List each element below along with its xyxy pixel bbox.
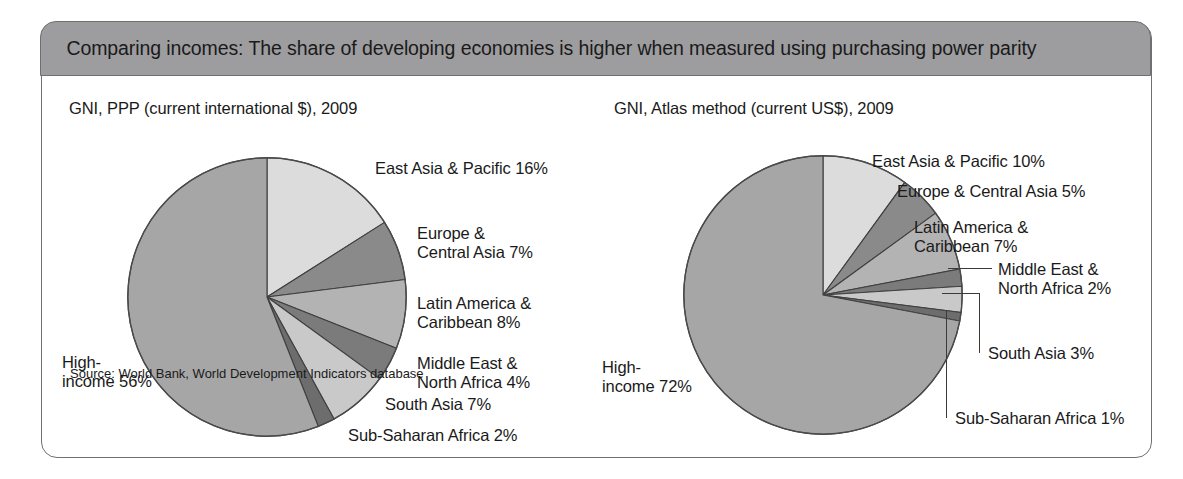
callout-europe-central-asia: Europe & Central Asia 7% — [417, 224, 533, 261]
chart-panel-ppp: GNI, PPP (current international $), 2009… — [42, 78, 598, 459]
callout-east-asia-pacific: East Asia & Pacific 16% — [375, 159, 548, 178]
chart-title-atlas: GNI, Atlas method (current US$), 2009 — [614, 99, 894, 118]
callout-east-asia-pacific: East Asia & Pacific 10% — [872, 152, 1045, 171]
chart-title-ppp: GNI, PPP (current international $), 2009 — [69, 99, 357, 118]
leader-line-middle-east — [948, 268, 992, 269]
figure-frame: Comparing incomes: The share of developi… — [41, 22, 1152, 458]
callout-high-income: High- income 72% — [602, 358, 692, 395]
pie-chart-ppp-svg — [126, 156, 408, 438]
chart-panel-atlas: GNI, Atlas method (current US$), 2009 Ea… — [542, 78, 1153, 459]
source-note: Source: World Bank, World Development In… — [70, 366, 424, 381]
pie-chart-ppp — [126, 156, 408, 438]
callout-latin-america-caribbean: Latin America & Caribbean 8% — [417, 294, 531, 331]
callout-latin-america-caribbean: Latin America & Caribbean 7% — [914, 218, 1028, 255]
leader-line-sub-saharan-v — [946, 310, 947, 418]
callout-sub-saharan-africa: Sub-Saharan Africa 2% — [348, 426, 517, 445]
callout-south-asia: South Asia 3% — [988, 344, 1094, 363]
figure-title-banner: Comparing incomes: The share of developi… — [40, 21, 1151, 76]
callout-middle-east-north-africa: Middle East & North Africa 4% — [417, 354, 530, 391]
callout-middle-east-north-africa: Middle East & North Africa 2% — [998, 260, 1111, 297]
callout-south-asia: South Asia 7% — [385, 395, 491, 414]
leader-line-south-asia-v — [979, 293, 980, 353]
figure-title-text: Comparing incomes: The share of developi… — [41, 37, 1036, 60]
callout-europe-central-asia: Europe & Central Asia 5% — [897, 182, 1085, 201]
leader-line-south-asia-h — [942, 293, 980, 294]
callout-sub-saharan-africa: Sub-Saharan Africa 1% — [955, 409, 1124, 428]
